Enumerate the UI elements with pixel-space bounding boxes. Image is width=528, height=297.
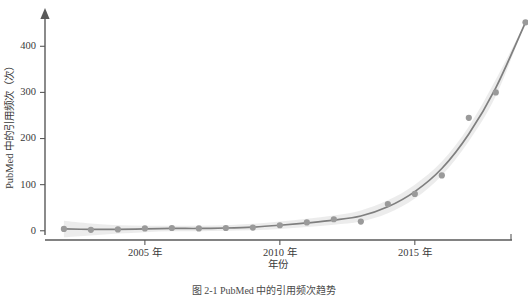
data-point-group <box>61 19 528 233</box>
y-tick-label: 100 <box>20 179 36 190</box>
y-tick-label: 0 <box>31 225 36 236</box>
y-tick-label: 300 <box>20 86 36 97</box>
data-point <box>412 191 418 197</box>
data-point <box>142 225 148 231</box>
data-point <box>88 227 94 233</box>
data-point <box>61 226 67 232</box>
fitted-trend-line <box>64 22 526 229</box>
x-tick-group: 2005 年2010 年2015 年 <box>128 240 432 258</box>
figure-caption: 图 2-1 PubMed 中的引用频次趋势 <box>0 282 528 297</box>
data-point <box>250 224 256 230</box>
y-axis: 0100200300400 <box>20 8 49 236</box>
data-point <box>115 226 121 232</box>
confidence-band <box>64 22 526 237</box>
data-point <box>522 19 528 25</box>
data-point <box>277 222 283 228</box>
x-axis-title: 年份 <box>268 258 289 270</box>
y-tick-label: 200 <box>20 132 36 143</box>
data-point <box>358 218 364 224</box>
x-axis: 2005 年2010 年2015 年 <box>45 234 512 258</box>
data-point <box>331 216 337 222</box>
y-axis-title: PubMed 中的引用频次（次） <box>3 61 15 189</box>
data-point <box>466 115 472 121</box>
data-point <box>385 201 391 207</box>
data-point <box>196 225 202 231</box>
y-tick-group: 0100200300400 <box>20 40 45 235</box>
x-tick-label: 2010 年 <box>263 246 297 258</box>
y-axis-arrow-icon <box>40 8 49 19</box>
data-point <box>439 172 445 178</box>
data-point <box>304 219 310 225</box>
x-tick-label: 2015 年 <box>398 246 432 258</box>
data-point <box>493 89 499 95</box>
y-tick-label: 400 <box>20 40 36 51</box>
data-point <box>169 225 175 231</box>
x-tick-label: 2005 年 <box>128 246 162 258</box>
data-point <box>223 225 229 231</box>
